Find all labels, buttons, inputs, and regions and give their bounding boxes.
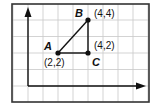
point-label-c: C: [92, 56, 101, 68]
y-axis-arrow-icon: [25, 7, 32, 17]
coordinate-diagram: A (2,2) B (4,4) C (4,2): [0, 0, 161, 111]
point-c: [85, 50, 90, 55]
point-label-a: A: [43, 40, 52, 52]
point-label-b: B: [75, 7, 83, 19]
x-axis-arrow-icon: [136, 83, 146, 90]
coord-label-c: (4,2): [94, 40, 115, 51]
point-b: [85, 17, 90, 22]
point-a: [55, 50, 60, 55]
coord-label-a: (2,2): [44, 57, 65, 68]
coord-label-b: (4,4): [94, 8, 115, 19]
